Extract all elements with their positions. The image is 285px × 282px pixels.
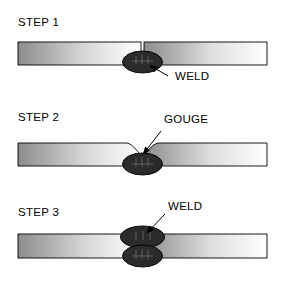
step-1-panel: STEP 1 WELD — [0, 0, 285, 95]
weld-callout-label: WELD — [175, 70, 209, 82]
gouge-callout-label: GOUGE — [164, 113, 208, 125]
step-1-label: STEP 1 — [18, 16, 59, 28]
step-1-illustration: STEP 1 WELD — [0, 0, 285, 95]
weld-callout-label: WELD — [168, 200, 202, 212]
step-3-illustration: STEP 3 WELD — [0, 190, 285, 282]
step-2-panel: STEP 2 GOUGE — [0, 95, 285, 190]
welding-sequence-diagram: STEP 1 WELD — [0, 0, 285, 282]
step-2-label: STEP 2 — [18, 111, 59, 123]
step-2-illustration: STEP 2 GOUGE — [0, 95, 285, 190]
step-3-panel: STEP 3 WELD — [0, 190, 285, 282]
step-3-label: STEP 3 — [18, 206, 59, 218]
